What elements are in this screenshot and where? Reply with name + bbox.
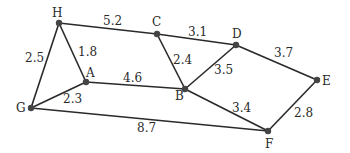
node-label: G bbox=[16, 101, 26, 115]
node-D bbox=[233, 42, 239, 48]
edge-weight-label: 2.5 bbox=[25, 51, 44, 65]
edge-weight-label: 2.4 bbox=[173, 53, 192, 67]
node-label: C bbox=[152, 15, 161, 29]
node-E bbox=[314, 77, 320, 83]
edge-weight-label: 3.1 bbox=[188, 25, 207, 39]
node-label: D bbox=[232, 27, 242, 41]
node-label: H bbox=[52, 6, 62, 20]
edge-weight-label: 3.5 bbox=[214, 63, 233, 77]
node-F bbox=[265, 128, 271, 134]
edge-weight-label: 4.6 bbox=[123, 71, 142, 85]
node-label: B bbox=[175, 89, 184, 103]
node-label: F bbox=[265, 137, 273, 151]
edge-weight-label: 3.7 bbox=[274, 46, 293, 60]
edge-weight-label: 2.8 bbox=[294, 106, 313, 120]
node-label: E bbox=[322, 74, 331, 88]
node-G bbox=[28, 105, 34, 111]
edge-weight-label: 3.4 bbox=[232, 101, 251, 115]
graph-svg: 5.23.13.71.82.52.43.54.62.33.42.88.7HCDE… bbox=[0, 0, 350, 153]
edge-weight-label: 1.8 bbox=[78, 45, 97, 59]
node-label: A bbox=[85, 66, 95, 80]
edge-weight-label: 5.2 bbox=[103, 14, 122, 28]
edge-weight-label: 2.3 bbox=[63, 92, 82, 106]
edge-H-G bbox=[31, 23, 59, 108]
node-C bbox=[154, 31, 160, 37]
node-H bbox=[56, 20, 62, 26]
edge-weight-label: 8.7 bbox=[137, 121, 156, 135]
weighted-graph-diagram: 5.23.13.71.82.52.43.54.62.33.42.88.7HCDE… bbox=[0, 0, 350, 153]
